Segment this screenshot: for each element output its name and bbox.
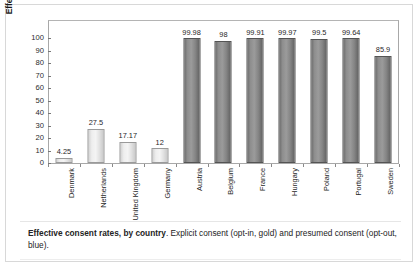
x-label-slot: France (239, 168, 271, 220)
chart-bar (311, 39, 328, 163)
x-axis-category-label: Poland (323, 168, 330, 191)
bar-value-label: 99.97 (278, 29, 297, 36)
bar-slot: 17.17 (112, 20, 144, 164)
y-tick-mark (48, 51, 51, 52)
x-label-slot: Belgium (208, 168, 240, 220)
x-label-slot: Poland (303, 168, 335, 220)
chart-bar (343, 38, 360, 163)
x-tick-mark (176, 164, 177, 167)
x-tick-mark (335, 164, 336, 167)
y-tick-mark (48, 88, 51, 89)
bar-slot: 85.9 (367, 20, 399, 164)
chart-bar (55, 158, 72, 163)
y-tick-label: 30 (20, 122, 44, 130)
bar-value-label: 17.17 (119, 132, 138, 139)
y-tick-mark (48, 38, 51, 39)
chart-bar (183, 38, 200, 163)
y-tick-label: 50 (20, 97, 44, 105)
y-tick-mark (48, 151, 51, 152)
bar-slot: 98 (208, 20, 240, 164)
x-axis-category-label: Germany (163, 168, 170, 198)
x-label-slot: United Kingdom (112, 168, 144, 220)
chart-bar (215, 41, 232, 164)
x-tick-mark (399, 164, 400, 167)
bar-slot: 99.98 (176, 20, 208, 164)
chart-bar (279, 38, 296, 163)
x-label-slot: Sweden (367, 168, 399, 220)
x-axis-category-label: United Kingdom (131, 168, 138, 221)
bar-slot: 27.5 (80, 20, 112, 164)
chart-bar (247, 38, 264, 163)
figure-caption: Effective consent rates, by country. Exp… (28, 227, 398, 252)
y-tick-label: 10 (20, 147, 44, 155)
x-axis-category-label: Austria (195, 168, 202, 191)
y-tick-label: 60 (20, 84, 44, 92)
x-label-slot: Netherlands (80, 168, 112, 220)
bar-value-label: 27.5 (89, 119, 103, 126)
x-tick-mark (271, 164, 272, 167)
x-axis-category-label: Netherlands (100, 168, 107, 208)
bar-slot: 4.25 (48, 20, 80, 164)
x-axis-category-label: Belgium (227, 168, 234, 195)
y-tick-mark (48, 101, 51, 102)
y-tick-label: 80 (20, 59, 44, 67)
x-axis-category-label: Portugal (355, 168, 362, 196)
chart-bar (151, 148, 168, 163)
y-tick-mark (48, 126, 51, 127)
bar-value-label: 4.25 (57, 148, 71, 155)
y-tick-label: 70 (20, 72, 44, 80)
chart-bar (119, 142, 136, 163)
caption-title: Effective consent rates, by country (28, 228, 166, 238)
caption-bottom-rule (20, 259, 401, 260)
y-tick-label: 100 (20, 34, 44, 42)
y-tick-label: 0 (20, 159, 44, 167)
x-axis-category-label: Denmark (68, 168, 75, 198)
bars-layer: 4.2527.517.171299.989899.9199.9799.599.6… (48, 20, 399, 164)
x-label-slot: Austria (176, 168, 208, 220)
bar-slot: 12 (144, 20, 176, 164)
y-tick-mark (48, 113, 51, 114)
x-label-slot: Portugal (335, 168, 367, 220)
y-tick-mark (48, 63, 51, 64)
x-label-slot: Denmark (48, 168, 80, 220)
x-tick-mark (239, 164, 240, 167)
bar-value-label: 99.98 (182, 29, 201, 36)
x-tick-mark (303, 164, 304, 167)
y-axis-title: Effective consent percentage (4, 0, 14, 21)
bar-slot: 99.64 (335, 20, 367, 164)
bar-slot: 99.91 (239, 20, 271, 164)
bar-value-label: 98 (219, 31, 227, 38)
x-tick-mark (48, 164, 49, 167)
bar-value-label: 12 (156, 139, 164, 146)
bar-value-label: 99.91 (246, 29, 265, 36)
y-tick-mark (48, 138, 51, 139)
bar-value-label: 99.64 (342, 29, 361, 36)
y-tick-mark (48, 76, 51, 77)
chart-bar (87, 129, 104, 163)
x-axis-category-label: Sweden (387, 168, 394, 195)
x-tick-mark (80, 164, 81, 167)
x-tick-mark (144, 164, 145, 167)
caption-divider (20, 221, 401, 222)
x-tick-mark (208, 164, 209, 167)
x-tick-mark (367, 164, 368, 167)
y-tick-mark (48, 163, 51, 164)
bar-value-label: 85.9 (376, 46, 390, 53)
y-tick-label: 40 (20, 109, 44, 117)
bar-value-label: 99.5 (312, 29, 326, 36)
x-axis-labels: DenmarkNetherlandsUnited KingdomGermanyA… (48, 168, 399, 220)
x-axis-category-label: France (259, 168, 266, 191)
x-label-slot: Germany (144, 168, 176, 220)
x-label-slot: Hungary (271, 168, 303, 220)
bar-slot: 99.97 (271, 20, 303, 164)
figure-card: Effective consent percentage 4.2527.517.… (5, 4, 413, 262)
x-axis-category-label: Hungary (291, 168, 298, 196)
y-tick-label: 20 (20, 134, 44, 142)
x-tick-mark (112, 164, 113, 167)
chart-bar (375, 56, 392, 163)
y-tick-label: 90 (20, 47, 44, 55)
bar-slot: 99.5 (303, 20, 335, 164)
